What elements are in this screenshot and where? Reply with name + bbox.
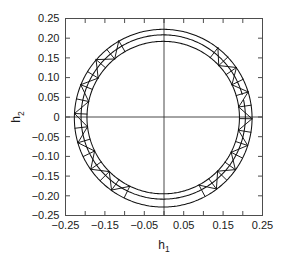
- tick-labels-group: −0.25−0.15−0.050.050.150.250.250.200.150…: [32, 12, 274, 230]
- chart-canvas: −0.25−0.15−0.050.050.150.250.250.200.150…: [0, 0, 285, 264]
- mesh-rung: [107, 49, 115, 59]
- x-axis-title-sub: 1: [165, 244, 170, 254]
- y-tick-label: 0.05: [38, 91, 59, 103]
- triangulated-mesh-group: [74, 41, 252, 198]
- mesh-rung: [100, 172, 109, 181]
- y-tick-label: 0.20: [38, 32, 59, 44]
- x-tick-label: 0.25: [252, 219, 273, 231]
- mesh-rung: [218, 171, 227, 180]
- y-tick-label: −0.15: [32, 170, 60, 182]
- phase-plane-figure: −0.25−0.15−0.050.050.150.250.250.200.150…: [0, 0, 285, 264]
- y-axis-title-group: h2: [9, 111, 26, 123]
- x-tick-label: 0.05: [173, 219, 194, 231]
- mesh-sector-left-flank: [74, 41, 129, 198]
- y-tick-label: 0.25: [38, 12, 59, 24]
- y-axis-title: h2: [9, 111, 26, 123]
- x-tick-label: 0.15: [212, 219, 233, 231]
- mesh-sector-right-flank: [199, 48, 252, 196]
- trajectory-2: [87, 41, 239, 193]
- y-tick-label: −0.20: [32, 190, 60, 202]
- x-axis-title: h1: [158, 238, 170, 255]
- y-tick-label: −0.25: [32, 209, 60, 221]
- y-tick-label: 0: [53, 111, 59, 123]
- y-tick-label: −0.05: [32, 131, 60, 143]
- mesh-diagonal: [216, 171, 217, 189]
- y-tick-label: −0.10: [32, 150, 60, 162]
- mesh-rung: [210, 48, 218, 58]
- x-tick-label: −0.05: [130, 219, 158, 231]
- y-tick-label: 0.10: [38, 71, 59, 83]
- mesh-diagonal: [218, 48, 219, 66]
- y-tick-label: 0.15: [38, 52, 59, 64]
- x-tick-label: −0.15: [91, 219, 119, 231]
- mesh-rung: [74, 114, 87, 115]
- y-axis-title-sub: 2: [16, 111, 26, 116]
- mesh-rung: [87, 72, 98, 79]
- mesh-diagonal: [96, 59, 115, 60]
- mesh-rung: [96, 60, 106, 68]
- mesh-rung: [119, 41, 125, 52]
